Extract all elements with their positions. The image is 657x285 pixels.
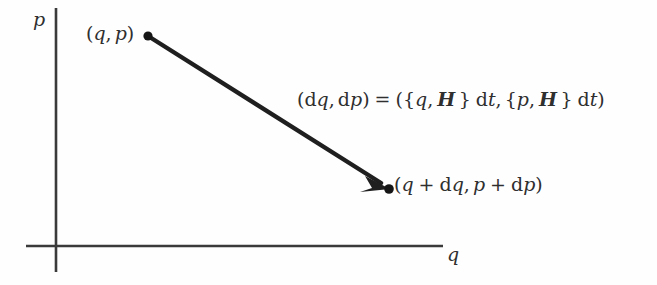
- hamiltonian-symbol-icon: H: [436, 88, 455, 110]
- diff-dt-1-t: t: [488, 88, 496, 110]
- axis-label-q: q: [447, 245, 459, 264]
- end-point-dot: [384, 184, 394, 194]
- differential-equation-label: (dq,dp)=({q,H}dt,{p,H}dt): [297, 90, 605, 109]
- diff-rhs-p: p: [517, 88, 529, 110]
- diff-dt-2-d: d: [578, 88, 590, 110]
- diff-poisson-brace-close-2: }: [560, 88, 572, 110]
- diff-lhs-dp-d: d: [338, 88, 350, 110]
- end-point-label: (q+dq,p+dp): [394, 175, 543, 194]
- diff-rhs-q: q: [415, 88, 427, 110]
- start-close-paren: ): [127, 22, 134, 44]
- diff-lhs-dq-d: d: [304, 88, 316, 110]
- axis-label-p: p: [33, 10, 45, 29]
- hamiltonian-symbol-icon-2: H: [538, 88, 557, 110]
- diff-rhs-open-paren: (: [396, 88, 403, 110]
- start-point-label: (q,p): [86, 24, 134, 43]
- end-dq-q: q: [452, 173, 464, 195]
- end-plus-second: +: [490, 173, 506, 195]
- end-close-paren: ): [535, 173, 542, 195]
- diff-equals-sign: =: [375, 88, 391, 110]
- start-q: q: [93, 22, 105, 44]
- end-dp-differential-d: d: [511, 173, 523, 195]
- diff-dt-1-d: d: [476, 88, 488, 110]
- diff-rhs-close-paren: ): [597, 88, 604, 110]
- end-dp-p: p: [523, 173, 535, 195]
- end-dq-differential-d: d: [440, 173, 452, 195]
- diff-poisson-brace-close-1: }: [459, 88, 471, 110]
- start-comma: ,: [106, 22, 112, 44]
- phase-space-diagram: p q (q,p) (q+dq,p+dp) (dq,dp)=({q,H}dt,{…: [0, 0, 657, 285]
- end-plus-first: +: [419, 173, 435, 195]
- diff-rhs-comma-3: ,: [529, 88, 535, 110]
- diff-lhs-comma: ,: [329, 88, 335, 110]
- end-comma: ,: [464, 173, 470, 195]
- diff-rhs-comma-2: ,: [496, 88, 502, 110]
- end-p: p: [473, 173, 485, 195]
- diff-poisson-brace-open-2: {: [505, 88, 517, 110]
- diff-lhs-close-paren: ): [362, 88, 369, 110]
- diff-lhs-dp-p: p: [350, 88, 362, 110]
- diff-lhs-dq-q: q: [317, 88, 329, 110]
- diff-poisson-brace-open-1: {: [403, 88, 415, 110]
- diff-rhs-comma-1: ,: [427, 88, 433, 110]
- end-q: q: [401, 173, 413, 195]
- start-point-dot: [143, 31, 152, 40]
- start-p: p: [115, 22, 127, 44]
